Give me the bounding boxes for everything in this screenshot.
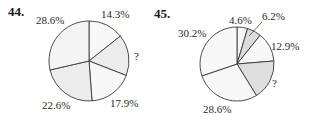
pie45-leader-line: [0, 0, 312, 122]
